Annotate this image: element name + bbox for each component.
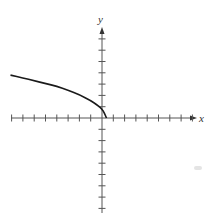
x-axis-label: x: [198, 112, 204, 124]
coordinate-plane: x y: [0, 0, 212, 222]
function-curve: [11, 75, 107, 118]
x-axis: x: [11, 112, 204, 124]
scan-artifact: [194, 166, 202, 170]
x-axis-arrow-icon: [190, 116, 197, 121]
y-axis-arrow-icon: [100, 27, 105, 34]
y-axis-label: y: [97, 13, 103, 25]
